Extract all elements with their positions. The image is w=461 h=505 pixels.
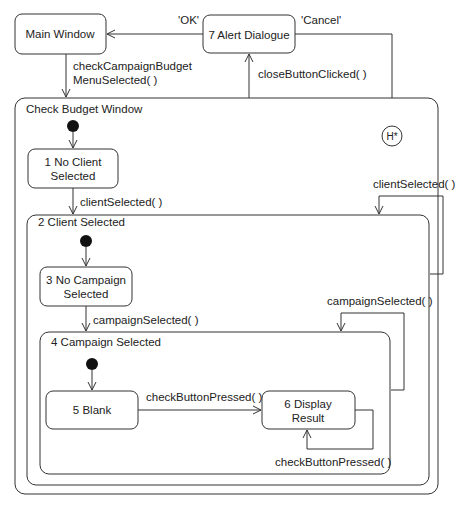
transition-label: checkButtonPressed( ): [146, 391, 263, 403]
state-label-line2: Result: [292, 412, 325, 424]
state-label: 5 Blank: [73, 404, 112, 416]
state-label: 7 Alert Dialogue: [208, 29, 289, 41]
state-label-line1: 1 No Client: [45, 156, 103, 168]
transition-close-button-clicked: closeButtonClicked( ): [249, 54, 367, 98]
history-label: H*: [386, 131, 397, 142]
transition-label: checkButtonPressed( ): [275, 456, 392, 468]
state-display-result: 6 Display Result: [262, 391, 355, 429]
transition-label-line1: checkCampaignBudget: [73, 60, 193, 72]
transition-label: clientSelected( ): [373, 178, 456, 190]
state-label: Check Budget Window: [26, 103, 143, 115]
transition-label: campaignSelected( ): [327, 295, 433, 307]
state-label-line1: 3 No Campaign: [46, 274, 126, 286]
state-label-line2: Selected: [64, 288, 109, 300]
state-label-line1: 6 Display: [284, 398, 332, 410]
transition-check-campaign-budget: checkCampaignBudget MenuSelected( ): [66, 54, 193, 97]
history-state: H*: [382, 126, 402, 146]
transition-label-line2: MenuSelected( ): [73, 74, 158, 86]
state-no-campaign-selected: 3 No Campaign Selected: [40, 267, 132, 306]
transition-label: 'OK': [178, 14, 199, 26]
state-label-line2: Selected: [51, 170, 96, 182]
initial-state-dot: [80, 235, 92, 247]
transition-ok: 'OK': [107, 14, 203, 34]
initial-state-dot: [86, 358, 98, 370]
state-label: 4 Campaign Selected: [51, 336, 161, 348]
initial-state-dot: [67, 120, 79, 132]
transition-label: clientSelected( ): [80, 196, 163, 208]
transition-label: campaignSelected( ): [93, 314, 199, 326]
state-main-window: Main Window: [15, 14, 106, 54]
state-alert-dialogue: 7 Alert Dialogue: [203, 15, 295, 53]
state-label: 2 Client Selected: [38, 216, 125, 228]
state-diagram: Main Window 7 Alert Dialogue 'OK' 'Cance…: [0, 0, 461, 505]
transition-label: closeButtonClicked( ): [258, 68, 367, 80]
state-blank: 5 Blank: [46, 391, 138, 429]
state-label: Main Window: [25, 28, 95, 40]
transition-label: 'Cancel': [301, 14, 341, 26]
state-no-client-selected: 1 No Client Selected: [28, 149, 118, 188]
